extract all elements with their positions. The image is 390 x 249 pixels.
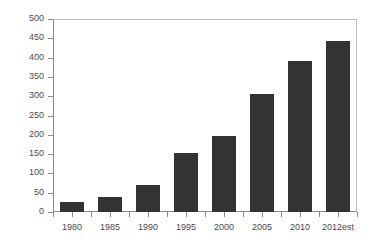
x-axis-tick-label: 2005 bbox=[252, 222, 272, 233]
x-axis-tick-mark bbox=[319, 212, 320, 217]
x-axis-tick-mark bbox=[148, 212, 149, 217]
x-axis-tick-mark bbox=[262, 212, 263, 217]
x-axis-tick-mark bbox=[338, 212, 339, 217]
bar bbox=[136, 185, 160, 212]
x-axis-tick-mark bbox=[243, 212, 244, 217]
x-axis-tick-mark bbox=[72, 212, 73, 217]
x-axis-tick-mark bbox=[53, 212, 54, 217]
x-axis-tick-mark bbox=[186, 212, 187, 217]
x-axis-tick-label: 1985 bbox=[100, 222, 120, 233]
x-axis-tick-mark bbox=[110, 212, 111, 217]
bar bbox=[288, 61, 312, 212]
x-axis-tick-label: 2000 bbox=[214, 222, 234, 233]
x-axis-tick-mark bbox=[281, 212, 282, 217]
x-axis-tick-mark bbox=[129, 212, 130, 217]
x-axis-tick-mark bbox=[300, 212, 301, 217]
x-axis-tick-mark bbox=[167, 212, 168, 217]
bar bbox=[250, 94, 274, 212]
bar-chart: 050100150200250300350400450500 198019851… bbox=[0, 0, 390, 249]
x-axis-tick-mark bbox=[357, 212, 358, 217]
x-axis-tick-label: 1980 bbox=[62, 222, 82, 233]
bar bbox=[98, 197, 122, 212]
bar bbox=[326, 41, 350, 212]
x-axis-tick-label: 2010 bbox=[290, 222, 310, 233]
x-axis-tick-label: 1990 bbox=[138, 222, 158, 233]
x-axis-tick-mark bbox=[91, 212, 92, 217]
x-axis-tick-label: 2012est bbox=[322, 222, 354, 233]
bar bbox=[60, 202, 84, 212]
x-axis-tick-mark bbox=[224, 212, 225, 217]
x-axis-tick-label: 1995 bbox=[176, 222, 196, 233]
x-axis-tick-mark bbox=[205, 212, 206, 217]
x-axis: 19801985199019952000200520102012est bbox=[0, 212, 390, 249]
bar bbox=[212, 136, 236, 212]
bar bbox=[174, 153, 198, 212]
